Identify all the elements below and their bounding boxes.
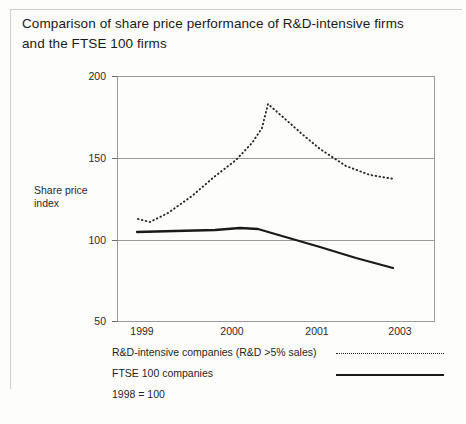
xtick-label-2001: 2001 [296,325,338,337]
ytick-label-200: 200 [68,70,106,82]
xtick-label-1999: 1999 [121,325,163,337]
xtick-label-2000: 2000 [211,325,253,337]
chart-legend: R&D-intensive companies (R&D >5% sales) … [112,345,452,387]
series-ftse100-line [137,228,393,268]
series-rd-intensive-line [138,104,394,222]
legend-item-rd-intensive: R&D-intensive companies (R&D >5% sales) [112,345,452,366]
y-axis-title-line-1: Share price [34,184,112,197]
legend-label-rd-intensive: R&D-intensive companies (R&D >5% sales) [112,346,317,358]
legend-base-year-note: 1998 = 100 [112,388,165,400]
legend-swatch-solid-icon [336,374,444,376]
plot-frame [118,77,435,322]
xtick-label-2003: 2003 [379,325,421,337]
legend-item-ftse100: FTSE 100 companies [112,366,452,387]
ytick-label-50: 50 [68,315,106,327]
ytick-label-100: 100 [68,234,106,246]
legend-label-ftse100: FTSE 100 companies [112,367,213,379]
figure-panel: Comparison of share price performance of… [0,0,466,424]
y-axis-title-line-2: index [34,197,112,210]
legend-swatch-dotted-icon [336,353,444,354]
y-axis-title: Share price index [34,184,112,210]
ytick-label-150: 150 [68,152,106,164]
